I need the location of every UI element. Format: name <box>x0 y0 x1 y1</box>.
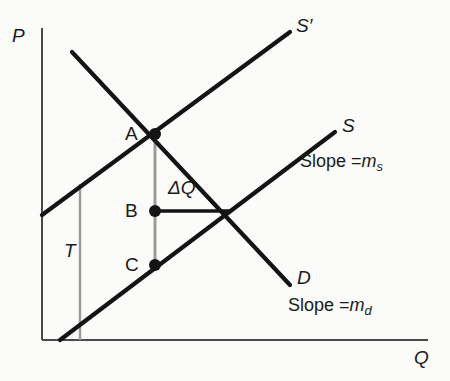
delta-q-label: ΔQ <box>168 178 196 197</box>
point-label-c: C <box>125 255 139 274</box>
demand-slope-symbol: m <box>350 295 365 315</box>
supply-slope-subscript: s <box>377 159 383 174</box>
point-marker-c <box>149 259 161 271</box>
supply-slope-text: Slope = <box>300 151 362 171</box>
point-label-b: B <box>125 201 138 220</box>
point-label-a: A <box>125 124 138 143</box>
demand-slope-label: Slope =md <box>288 296 372 318</box>
supply-demand-figure: P Q S′ S D Slope =ms Slope =md A B C ΔQ … <box>0 0 450 381</box>
demand-slope-text: Slope = <box>288 295 350 315</box>
supply-label: S <box>342 116 355 135</box>
supply-slope-label: Slope =ms <box>300 152 383 174</box>
y-axis-label: P <box>12 26 25 45</box>
demand-slope-subscript: d <box>365 303 372 318</box>
supply-slope-symbol: m <box>362 151 377 171</box>
supply-shifted-label: S′ <box>296 16 312 35</box>
demand-label: D <box>297 268 311 287</box>
tax-label: T <box>64 241 76 260</box>
point-marker-b <box>149 205 161 217</box>
point-marker-a <box>149 128 161 140</box>
figure-canvas <box>0 0 450 381</box>
x-axis-label: Q <box>414 348 429 367</box>
